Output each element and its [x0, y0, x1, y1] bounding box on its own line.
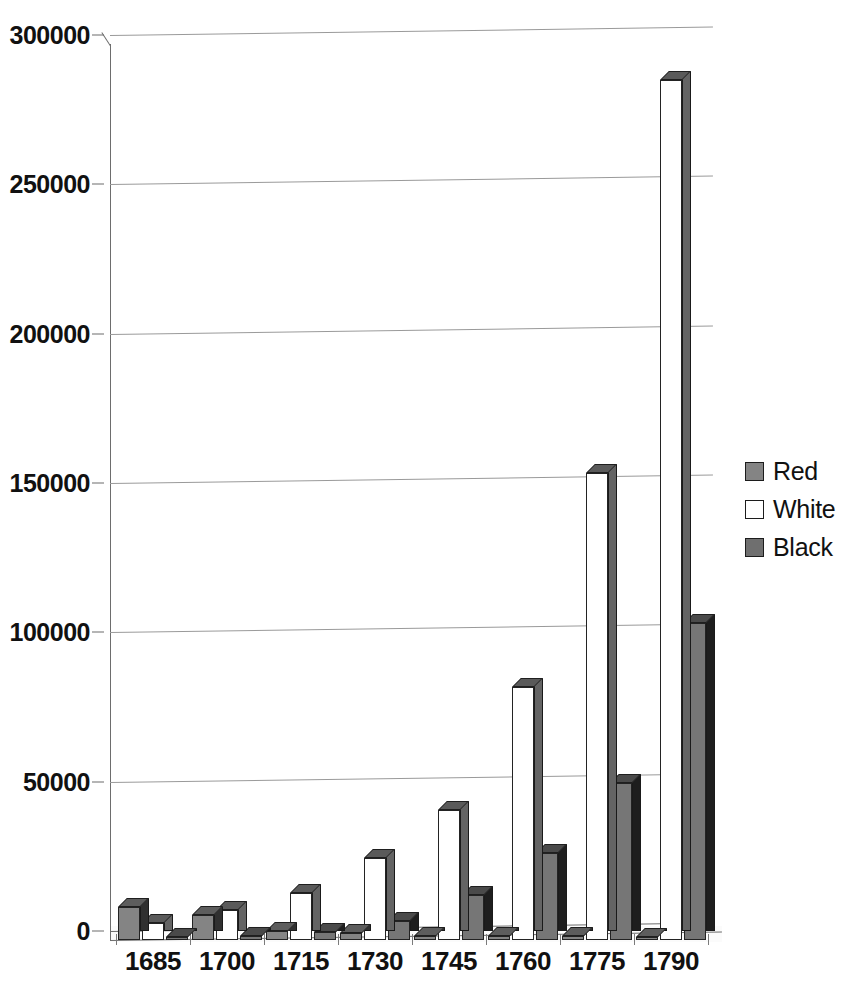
- bar-side-face: [558, 844, 567, 931]
- x-tick-label: 1700: [199, 946, 255, 977]
- legend-item-label: Black: [773, 533, 833, 562]
- bar-front-face: [266, 931, 288, 940]
- bar-white-1715: [290, 893, 312, 940]
- x-tick-label: 1685: [125, 946, 181, 977]
- bar-side-face: [608, 464, 617, 931]
- x-tick-label: 1745: [421, 946, 477, 977]
- y-tick-label: 250000: [10, 170, 90, 199]
- y-tick-mark: [92, 931, 104, 932]
- bar-side-face: [706, 614, 715, 931]
- bar-front-face: [562, 936, 584, 940]
- bar-front-face: [414, 936, 436, 940]
- bar-black-1700: [240, 936, 262, 940]
- y-tick-mark: [92, 483, 104, 484]
- bar-front-face: [488, 936, 510, 940]
- y-tick-mark: [92, 333, 104, 334]
- swatch-red-icon: [745, 462, 764, 481]
- bar-side-face: [386, 849, 395, 931]
- x-tick-mark: [634, 934, 635, 945]
- x-tick-mark: [338, 934, 339, 945]
- bars-layer: [110, 30, 725, 955]
- y-tick-label: 200000: [10, 319, 90, 348]
- y-tick-label: 50000: [23, 767, 90, 796]
- x-tick-label: 1760: [495, 946, 551, 977]
- bar-side-face: [460, 801, 469, 931]
- x-tick-label: 1790: [643, 946, 699, 977]
- legend-item-black: Black: [745, 528, 855, 566]
- y-tick-label: 100000: [10, 618, 90, 647]
- x-tick-mark: [708, 934, 709, 945]
- bar-red-1715: [266, 931, 288, 940]
- x-tick-mark: [116, 934, 117, 945]
- legend-item-label: Red: [773, 457, 818, 486]
- bar-black-1685: [166, 937, 188, 940]
- bar-front-face: [660, 80, 682, 940]
- legend-item-white: White: [745, 490, 855, 528]
- bar-side-face: [632, 774, 641, 931]
- x-axis: 16851700171517301745176017751790: [110, 946, 730, 992]
- y-tick-mark: [92, 184, 104, 185]
- bar-red-1790: [636, 937, 658, 940]
- bar-white-1775: [586, 473, 608, 940]
- chart-legend: RedWhiteBlack: [745, 452, 855, 566]
- y-tick-mark: [92, 632, 104, 633]
- bar-red-1685: [118, 907, 140, 940]
- bar-front-face: [340, 933, 362, 940]
- x-tick-label: 1730: [347, 946, 403, 977]
- bar-side-face: [534, 678, 543, 931]
- bar-front-face: [512, 687, 534, 940]
- swatch-white-icon: [745, 500, 764, 519]
- bar-front-face: [240, 936, 262, 940]
- x-tick-label: 1715: [273, 946, 329, 977]
- legend-item-red: Red: [745, 452, 855, 490]
- bar-front-face: [586, 473, 608, 940]
- bar-chart: 050000100000150000200000250000300000 168…: [0, 0, 857, 996]
- bar-white-1760: [512, 687, 534, 940]
- bar-front-face: [290, 893, 312, 940]
- y-tick-mark: [92, 781, 104, 782]
- plot-area: [110, 30, 725, 955]
- bar-white-1790: [660, 80, 682, 940]
- x-tick-mark: [264, 934, 265, 945]
- bar-black-1715: [314, 932, 336, 940]
- bar-red-1745: [414, 936, 436, 940]
- y-tick-label: 150000: [10, 469, 90, 498]
- y-tick-label: 0: [77, 917, 90, 946]
- x-tick-mark: [190, 934, 191, 945]
- bar-front-face: [636, 937, 658, 940]
- bar-red-1760: [488, 936, 510, 940]
- bar-side-face: [682, 71, 691, 931]
- legend-item-label: White: [773, 495, 835, 524]
- bar-front-face: [314, 932, 336, 940]
- bar-white-1745: [438, 810, 460, 940]
- bar-front-face: [118, 907, 140, 940]
- y-tick-label: 300000: [10, 21, 90, 50]
- bar-front-face: [438, 810, 460, 940]
- swatch-black-icon: [745, 538, 764, 557]
- x-tick-label: 1775: [569, 946, 625, 977]
- bar-red-1775: [562, 936, 584, 940]
- y-axis: 050000100000150000200000250000300000: [0, 0, 104, 996]
- bar-front-face: [166, 937, 188, 940]
- bar-red-1730: [340, 933, 362, 940]
